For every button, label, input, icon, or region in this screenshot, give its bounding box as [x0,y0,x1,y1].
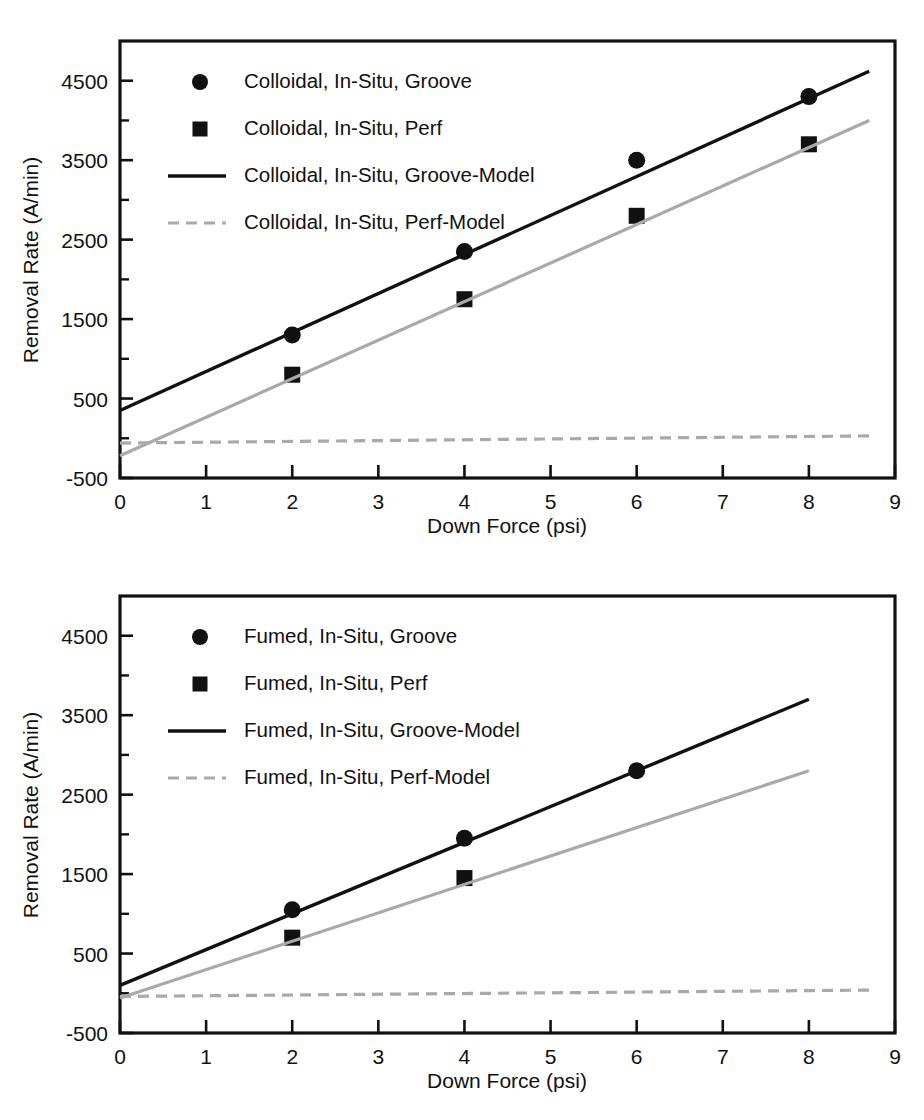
x-tick-label: 9 [889,1045,901,1068]
x-tick-label: 2 [286,1045,298,1068]
series-line [120,436,869,443]
data-series-colloidal [120,71,869,456]
x-tick-label: 2 [286,490,298,513]
y-tick-label: -500 [66,467,108,490]
x-tick-label: 5 [545,490,557,513]
legend-square-icon [193,677,208,692]
y-tick-label: 3500 [61,149,108,172]
y-axis-tick-labels-colloidal: -5005001500250035004500 [61,70,108,490]
x-tick-label: 4 [459,1045,471,1068]
legend-circle-icon [192,629,208,645]
legend-label: Fumed, In-Situ, Groove-Model [244,718,520,741]
legend-label: Colloidal, In-Situ, Groove-Model [244,163,535,186]
data-point-circle [628,152,645,169]
chart-panel-colloidal: -5005001500250035004500 0123456789 Down … [0,0,924,540]
x-tick-label: 0 [114,490,126,513]
x-tick-label: 8 [803,1045,815,1068]
x-tick-label: 3 [372,1045,384,1068]
x-tick-label: 1 [200,1045,212,1068]
legend-circle-icon [192,74,208,90]
x-tick-label: 1 [200,490,212,513]
fumed-plot-area [120,596,895,1033]
y-axis-title-colloidal: Removal Rate (A/min) [19,157,42,364]
legend-fumed: Fumed, In-Situ, GrooveFumed, In-Situ, Pe… [168,624,520,788]
x-tick-label: 3 [372,490,384,513]
x-axis-ticks-colloidal [120,465,895,478]
legend-label: Colloidal, In-Situ, Perf-Model [244,210,505,233]
fumed-plot-svg: -5005001500250035004500 0123456789 Down … [0,555,924,1095]
x-tick-label: 7 [717,490,729,513]
y-axis-ticks-fumed [120,636,133,1033]
legend-label: Colloidal, In-Situ, Groove [244,69,472,92]
colloidal-plot-area [120,41,895,478]
y-axis-title-fumed: Removal Rate (A/min) [19,712,42,919]
y-axis-tick-labels-fumed: -5005001500250035004500 [61,625,108,1045]
legend-label: Fumed, In-Situ, Groove [244,624,457,647]
x-axis-title-colloidal: Down Force (psi) [427,514,587,537]
y-tick-label: 4500 [61,70,108,93]
y-tick-label: 1500 [61,308,108,331]
plot-frame-fumed [120,596,895,1033]
legend-label: Fumed, In-Situ, Perf [244,671,428,694]
y-tick-label: 2500 [61,229,108,252]
x-tick-label: 4 [459,490,471,513]
y-tick-label: 2500 [61,784,108,807]
caption-strip [30,1095,894,1109]
figure-page: -5005001500250035004500 0123456789 Down … [0,0,924,1120]
x-axis-tick-labels-colloidal: 0123456789 [114,490,901,513]
x-axis-title-fumed: Down Force (psi) [427,1069,587,1092]
legend-label: Fumed, In-Situ, Perf-Model [244,765,490,788]
x-axis-tick-labels-fumed: 0123456789 [114,1045,901,1068]
series-line [120,990,869,996]
x-tick-label: 5 [545,1045,557,1068]
series-line [120,71,869,410]
y-axis-ticks-colloidal [120,81,133,478]
x-tick-label: 6 [631,1045,643,1068]
x-axis-ticks-fumed [120,1020,895,1033]
legend-label: Colloidal, In-Situ, Perf [244,116,443,139]
x-tick-label: 0 [114,1045,126,1068]
x-tick-label: 6 [631,490,643,513]
y-tick-label: 3500 [61,704,108,727]
legend-colloidal: Colloidal, In-Situ, GrooveColloidal, In-… [168,69,535,233]
y-tick-label: 500 [73,388,108,411]
x-tick-label: 9 [889,490,901,513]
plot-frame-colloidal [120,41,895,478]
x-tick-label: 8 [803,490,815,513]
legend-square-icon [193,122,208,137]
chart-panel-fumed: -5005001500250035004500 0123456789 Down … [0,555,924,1095]
y-tick-label: 500 [73,943,108,966]
y-tick-label: 1500 [61,863,108,886]
data-series-fumed [120,699,869,998]
series-line [120,771,809,998]
colloidal-plot-svg: -5005001500250035004500 0123456789 Down … [0,0,924,540]
x-tick-label: 7 [717,1045,729,1068]
y-tick-label: 4500 [61,625,108,648]
y-tick-label: -500 [66,1022,108,1045]
series-line [120,699,809,985]
